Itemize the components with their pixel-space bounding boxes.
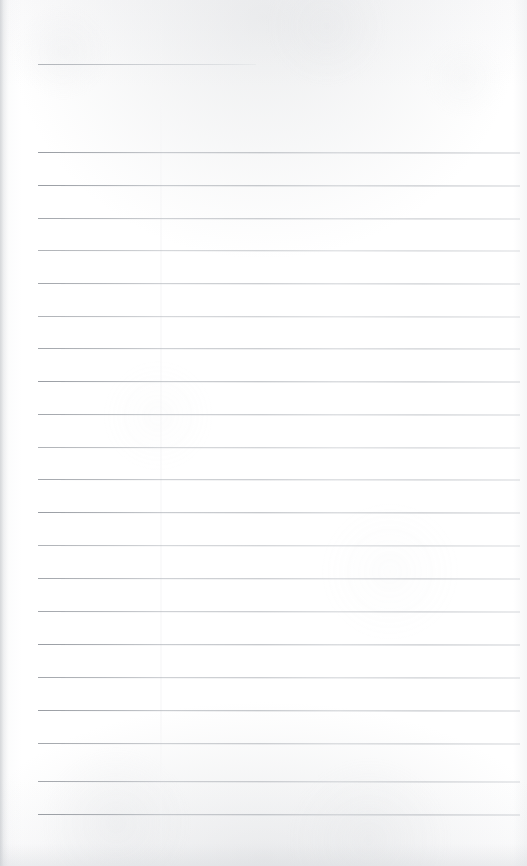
- ruled-line: [38, 644, 520, 645]
- ruled-line: [38, 316, 520, 317]
- ruled-line: [38, 545, 520, 546]
- header-rule: [38, 64, 256, 65]
- lined-paper-page: A scanned blank sheet of ruled writing p…: [0, 0, 527, 866]
- bottom-edge-scan-shadow: [0, 844, 527, 866]
- ruled-line: [38, 677, 520, 678]
- ruled-line: [38, 185, 520, 186]
- left-edge-scan-shadow: [0, 0, 7, 866]
- ruled-line: [38, 152, 520, 153]
- ruled-line: [38, 814, 520, 815]
- ruled-line: [38, 250, 520, 251]
- ruled-line: [38, 283, 520, 284]
- paper-texture-overlay: [0, 0, 527, 866]
- ruled-line: [38, 710, 520, 711]
- ruled-line: [38, 743, 520, 744]
- ruled-line: [38, 447, 520, 448]
- ruled-line: [38, 218, 520, 219]
- paper-grain-overlay: [0, 0, 527, 866]
- ruled-line: [38, 479, 520, 480]
- scan-seam-artifact: [160, 0, 162, 866]
- ruled-line: [38, 381, 520, 382]
- ruled-line: [38, 414, 520, 415]
- ruled-line: [38, 512, 520, 513]
- ruled-line: [38, 611, 520, 612]
- ruled-line: [38, 578, 520, 579]
- ruled-line: [38, 348, 520, 349]
- ruled-line: [38, 781, 520, 782]
